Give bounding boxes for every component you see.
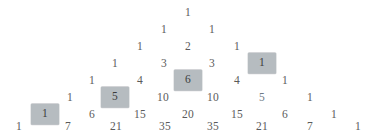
pascal-cell: 10 xyxy=(157,92,169,104)
pascal-cell: 1 xyxy=(137,41,143,53)
pascal-cell: 1 xyxy=(234,41,240,53)
pascal-cell: 1 xyxy=(209,24,215,36)
pascal-cell: 6 xyxy=(89,109,95,121)
pascal-cell: 1 xyxy=(161,24,167,36)
pascal-cell-highlighted: 5 xyxy=(101,87,129,108)
pascal-cell: 1 xyxy=(67,92,73,104)
pascal-cell: 4 xyxy=(137,75,143,87)
pascal-cell: 1 xyxy=(89,75,95,87)
pascal-cell: 5 xyxy=(259,92,265,104)
pascal-cell-highlighted: 1 xyxy=(31,104,59,125)
pascal-cell: 3 xyxy=(161,58,167,70)
pascal-cell: 7 xyxy=(307,121,313,133)
pascal-cell: 21 xyxy=(110,121,122,133)
pascal-cell: 1 xyxy=(307,92,313,104)
pascal-cell: 7 xyxy=(65,121,71,133)
pascal-cell: 1 xyxy=(282,75,288,87)
pascal-cell: 1 xyxy=(355,121,361,133)
pascal-cell: 4 xyxy=(234,75,240,87)
pascal-cell: 1 xyxy=(16,121,22,133)
pascal-cell: 6 xyxy=(282,109,288,121)
pascal-cell: 1 xyxy=(331,109,337,121)
pascal-cell: 10 xyxy=(207,92,219,104)
pascal-cell: 15 xyxy=(134,109,146,121)
pascal-cell: 21 xyxy=(256,121,268,133)
pascal-cell: 3 xyxy=(209,58,215,70)
pascal-cell: 1 xyxy=(185,7,191,19)
pascal-cell: 35 xyxy=(207,121,219,133)
pascal-cell: 15 xyxy=(231,109,243,121)
pascal-cell: 20 xyxy=(182,109,194,121)
pascal-cell-highlighted: 1 xyxy=(248,53,276,74)
pascal-cell: 2 xyxy=(185,41,191,53)
pascal-cell: 1 xyxy=(112,58,118,70)
pascal-cell-highlighted: 6 xyxy=(174,70,202,91)
pascals-triangle: 1111211331146411510105116152015611721353… xyxy=(0,0,382,138)
pascal-cell: 35 xyxy=(159,121,171,133)
